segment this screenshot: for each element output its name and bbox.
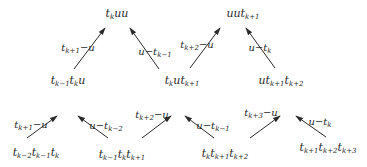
- edge-label: u−tk: [248, 42, 271, 53]
- edge-label: tk+2−u: [180, 39, 213, 50]
- edge-label: tk+3−u: [244, 107, 277, 118]
- node-bot4: tk+1tk+2tk+3: [300, 142, 357, 153]
- node-bot3: tktk+1tk+2: [202, 148, 249, 159]
- node-top1: tkuu: [106, 8, 129, 19]
- node-bot1: tk−2tk−1tk: [13, 147, 60, 158]
- edge-label: u−tk: [308, 116, 331, 127]
- node-mid3: utk+1tk+2: [258, 75, 303, 86]
- node-mid1: tk−1tku: [51, 75, 86, 86]
- node-bot2: tk−1tktk+1: [99, 149, 146, 160]
- edge-label: tk+1−u: [61, 42, 94, 53]
- node-top2: uutk+1: [226, 8, 259, 19]
- edge-label: tk+1−u: [14, 119, 47, 130]
- edge-label: u−tk−2: [89, 120, 122, 131]
- edge-label: tk+2−u: [135, 109, 168, 120]
- node-mid2: tkutk+1: [165, 75, 200, 86]
- edge-label: u−tk−1: [138, 46, 171, 57]
- edge-label: u−tk−1: [196, 120, 229, 131]
